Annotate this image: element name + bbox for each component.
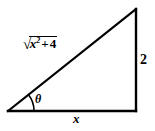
radicand: x2+4 [29, 36, 57, 50]
radicand-constant: 4 [50, 36, 57, 51]
angle-theta-label: θ [35, 93, 41, 105]
vertical-side-label: 2 [140, 53, 147, 67]
radical-expression: √x2+4 [23, 36, 57, 52]
radicand-operator: + [40, 36, 49, 51]
right-triangle-figure: √x2+4 2 x θ [0, 0, 155, 131]
hypotenuse-line [8, 9, 136, 111]
hypotenuse-label: √x2+4 [23, 36, 57, 52]
angle-arc [28, 95, 34, 111]
base-side-label: x [73, 112, 80, 125]
